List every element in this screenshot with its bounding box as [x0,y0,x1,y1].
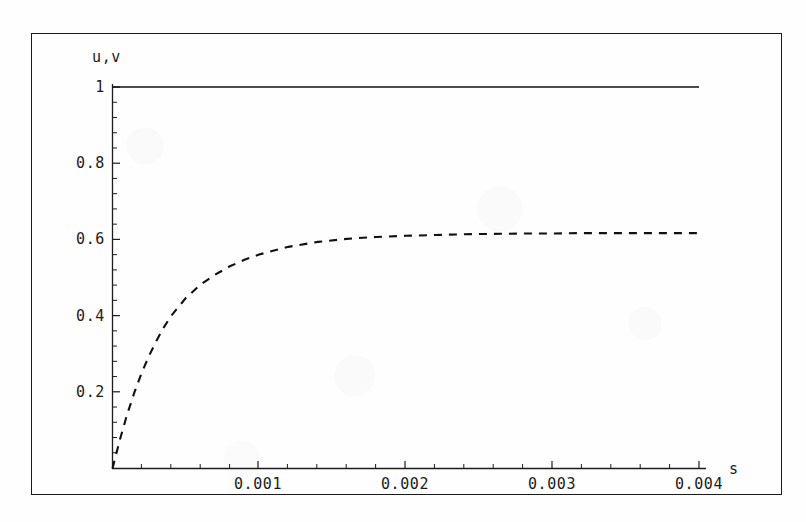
y-tick-label-0-6: 0.6 [76,230,105,248]
y-axis-label: u,v [92,48,121,66]
plot-svg: 1 0.8 0.6 0.4 0.2 0.001 0.002 0.003 0.00… [0,0,806,522]
y-minor-ticks [113,102,118,453]
y-tick-label-0-4: 0.4 [76,307,105,325]
x-major-ticks [258,461,699,469]
x-tick-label-0-002: 0.002 [381,475,429,493]
y-tick-label-0-8: 0.8 [76,154,105,172]
figure-canvas: 1 0.8 0.6 0.4 0.2 0.001 0.002 0.003 0.00… [0,0,806,522]
series-v [113,233,700,468]
y-tick-label-1: 1 [95,78,105,96]
y-tick-label-0-2: 0.2 [76,383,105,401]
x-axis-label: s [729,460,739,478]
x-tick-label-0-003: 0.003 [528,475,576,493]
x-tick-label-0-004: 0.004 [675,475,723,493]
x-tick-label-0-001: 0.001 [234,475,282,493]
data-series-layer [113,87,700,469]
